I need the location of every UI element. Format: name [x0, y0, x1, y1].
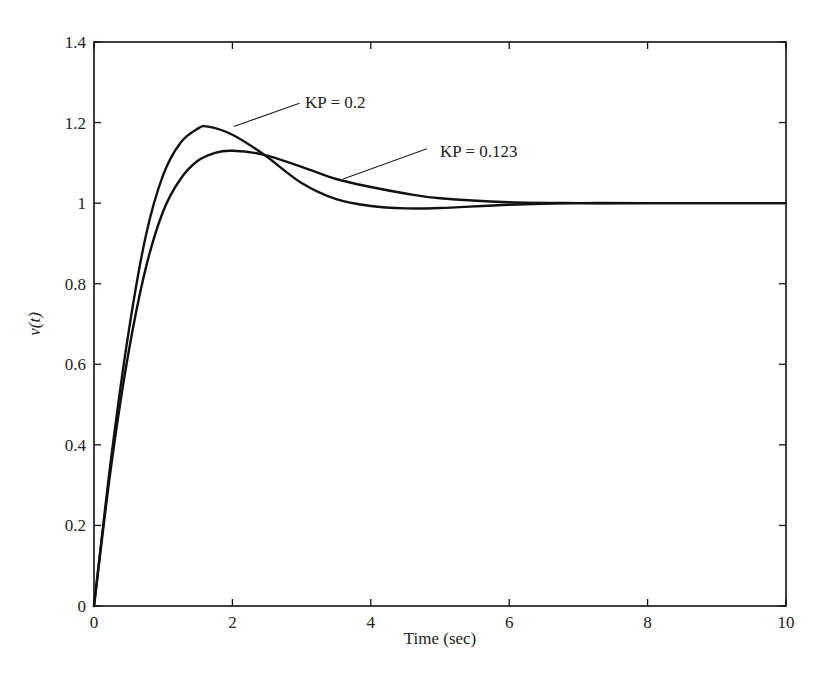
x-tick-label: 4 — [367, 613, 376, 632]
curve-kp-0-123 — [94, 151, 786, 606]
step-response-chart: 024681000.20.40.60.811.21.4 KP = 0.2 KP … — [0, 0, 825, 695]
x-tick-label: 8 — [643, 613, 652, 632]
axis-ticks — [94, 42, 786, 606]
plot-frame — [94, 42, 786, 606]
annotation-kp-0-123: KP = 0.123 — [440, 142, 517, 161]
y-axis-label: v(t) — [25, 312, 44, 336]
y-tick-label: 0.4 — [65, 436, 87, 455]
y-tick-label: 0.6 — [65, 355, 86, 374]
y-tick-label: 0 — [78, 597, 87, 616]
y-tick-label: 1 — [78, 194, 87, 213]
annotation-leader-kp-0-123 — [343, 149, 427, 179]
annotation-leader-kp-0-2 — [234, 103, 300, 126]
y-tick-label: 0.8 — [65, 275, 86, 294]
plot-area — [94, 42, 786, 606]
x-tick-label: 2 — [228, 613, 237, 632]
curves — [94, 126, 786, 606]
x-tick-label: 0 — [90, 613, 99, 632]
y-tick-label: 1.4 — [65, 33, 87, 52]
y-tick-label: 1.2 — [65, 114, 86, 133]
axis-tick-labels: 024681000.20.40.60.811.21.4 — [65, 33, 795, 632]
x-axis-label: Time (sec) — [404, 629, 477, 648]
x-tick-label: 10 — [778, 613, 795, 632]
y-tick-label: 0.2 — [65, 516, 86, 535]
annotation-kp-0-2: KP = 0.2 — [305, 93, 365, 112]
annotations: KP = 0.2 KP = 0.123 — [234, 93, 518, 179]
x-tick-label: 6 — [505, 613, 514, 632]
